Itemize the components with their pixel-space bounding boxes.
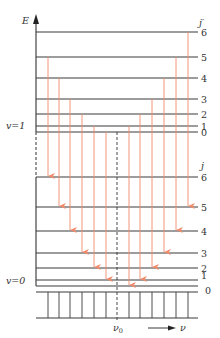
lower-vib-label: v=0: [6, 275, 25, 286]
upper-level-label-5: 5: [201, 52, 207, 63]
lower-level-label-4: 4: [201, 226, 207, 237]
upper-rot-label: j′: [197, 17, 205, 28]
energy-axis-label: E: [21, 15, 29, 26]
lower-level-label-1: 1: [201, 270, 207, 281]
upper-level-label-6: 6: [201, 27, 207, 38]
upper-levels: 6543210: [36, 27, 207, 138]
upper-level-label-4: 4: [201, 73, 207, 84]
center-frequency-label: ν0: [113, 322, 123, 335]
upper-level-label-3: 3: [201, 94, 207, 105]
energy-level-diagram: 6543210 6543210 E j′ j v=1 v=0 ν0 ν: [0, 0, 220, 338]
upper-vib-label: v=1: [6, 120, 25, 131]
lower-level-label-5: 5: [201, 202, 207, 213]
energy-axis: [33, 14, 39, 286]
lower-level-label-6: 6: [201, 172, 207, 183]
frequency-direction-arrow: [148, 326, 176, 331]
lower-level-label-0: 0: [205, 285, 211, 296]
arrow-right-icon: [168, 326, 176, 331]
transition-arrows: [48, 32, 188, 285]
lower-levels: 6543210: [36, 172, 211, 297]
upper-level-label-0: 0: [201, 127, 207, 138]
axis-arrow-icon: [33, 14, 39, 24]
lower-level-label-3: 3: [201, 248, 207, 259]
lower-rot-label: j: [199, 160, 204, 171]
frequency-axis-label: ν: [180, 322, 186, 333]
upper-level-label-2: 2: [201, 109, 207, 120]
